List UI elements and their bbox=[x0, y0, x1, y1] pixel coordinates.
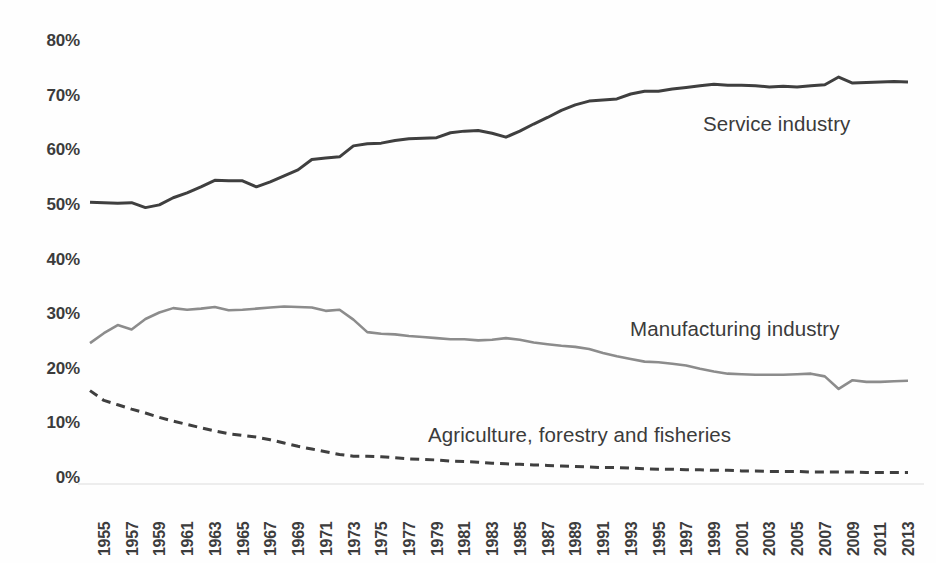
x-axis-tick-1965: 1965 bbox=[235, 522, 253, 556]
x-axis-tick-2003: 2003 bbox=[761, 522, 779, 556]
x-axis-tick-1995: 1995 bbox=[651, 522, 669, 556]
x-axis-tick-1967: 1967 bbox=[262, 522, 280, 556]
x-axis-tick-2009: 2009 bbox=[845, 522, 863, 556]
chart-container: 80%70%60%50%40%30%20%10%0% 1955195719591… bbox=[0, 0, 936, 563]
x-axis-tick-1983: 1983 bbox=[484, 522, 502, 556]
x-axis-tick-1985: 1985 bbox=[512, 522, 530, 556]
x-axis-tick-1955: 1955 bbox=[96, 522, 114, 556]
series-label-service-industry: Service industry bbox=[703, 112, 850, 136]
x-axis-tick-2005: 2005 bbox=[789, 522, 807, 556]
x-axis-tick-1981: 1981 bbox=[456, 522, 474, 556]
series-label-manufacturing-industry: Manufacturing industry bbox=[630, 317, 840, 341]
x-axis-tick-1971: 1971 bbox=[318, 522, 336, 556]
x-axis-tick-2013: 2013 bbox=[900, 522, 918, 556]
x-axis-tick-1989: 1989 bbox=[567, 522, 585, 556]
x-axis-tick-1991: 1991 bbox=[595, 522, 613, 556]
x-axis-tick-1977: 1977 bbox=[401, 522, 419, 556]
x-axis-tick-1963: 1963 bbox=[207, 522, 225, 556]
x-axis-tick-2007: 2007 bbox=[817, 522, 835, 556]
x-axis-tick-2001: 2001 bbox=[734, 522, 752, 556]
x-axis-tick-labels: 1955195719591961196319651967196919711973… bbox=[0, 0, 936, 563]
x-axis-tick-1961: 1961 bbox=[179, 522, 197, 556]
x-axis-tick-2011: 2011 bbox=[872, 522, 890, 556]
x-axis-tick-1987: 1987 bbox=[540, 522, 558, 556]
x-axis-tick-1973: 1973 bbox=[346, 522, 364, 556]
x-axis-tick-1975: 1975 bbox=[373, 522, 391, 556]
x-axis-tick-1999: 1999 bbox=[706, 522, 724, 556]
x-axis-tick-1993: 1993 bbox=[623, 522, 641, 556]
x-axis-tick-1959: 1959 bbox=[151, 522, 169, 556]
series-label-agriculture-forestry-fisheries: Agriculture, forestry and fisheries bbox=[428, 423, 731, 447]
x-axis-tick-1969: 1969 bbox=[290, 522, 308, 556]
x-axis-tick-1957: 1957 bbox=[124, 522, 142, 556]
x-axis-tick-1997: 1997 bbox=[678, 522, 696, 556]
x-axis-tick-1979: 1979 bbox=[429, 522, 447, 556]
